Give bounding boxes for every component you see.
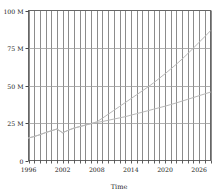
- x-axis-title: Time: [111, 183, 128, 191]
- vertical-gridlines: [30, 11, 212, 161]
- series-line-lower-series: [29, 92, 211, 138]
- x-tick-label: 2014: [123, 166, 139, 173]
- x-tick-label: 2020: [157, 166, 173, 173]
- y-tick-label: 0: [20, 158, 24, 165]
- y-tick-label: 100 M: [3, 8, 24, 15]
- horizontal-gridlines: [29, 49, 211, 124]
- x-tick-label: 2008: [89, 166, 105, 173]
- x-tick-label: 2026: [191, 166, 207, 173]
- y-tick-label: 50 M: [7, 83, 24, 90]
- line-chart: 100 M75 M50 M25 M0 199620022008201420202…: [0, 0, 221, 193]
- series-line-upper-series: [29, 31, 211, 138]
- x-tick-label: 2002: [55, 166, 71, 173]
- y-axis-tick-labels: 100 M75 M50 M25 M0: [3, 8, 24, 165]
- x-tick-label: 1996: [21, 166, 37, 173]
- chart-canvas: 100 M75 M50 M25 M0 199620022008201420202…: [0, 0, 221, 193]
- plot-area-border: [29, 11, 211, 161]
- x-axis-tick-labels: 199620022008201420202026: [21, 166, 207, 173]
- data-series-layer: [29, 31, 211, 138]
- y-tick-label: 75 M: [7, 45, 24, 52]
- y-tick-label: 25 M: [7, 120, 24, 127]
